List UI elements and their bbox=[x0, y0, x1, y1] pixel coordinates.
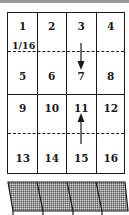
top-border bbox=[0, 0, 129, 3]
sixteen-cell-grid: 1 2 3 4 1/16 5 6 7 8 9 10 11 12 13 14 15… bbox=[7, 12, 125, 174]
cell-3-label: 3 bbox=[67, 20, 97, 32]
cell-13-label: 13 bbox=[8, 152, 38, 164]
cell-4-label: 4 bbox=[96, 20, 126, 32]
cell-12-label: 12 bbox=[96, 102, 126, 114]
cell-9-label: 9 bbox=[8, 102, 38, 114]
row-divider-middle bbox=[8, 94, 124, 95]
cell-16-label: 16 bbox=[96, 152, 126, 164]
hatched-strip bbox=[7, 181, 129, 215]
arrow-up-icon bbox=[76, 113, 86, 145]
cell-7-label: 7 bbox=[67, 70, 97, 82]
cell-10-label: 10 bbox=[37, 102, 67, 114]
fraction-label: 1/16 bbox=[12, 40, 35, 51]
cell-5-label: 5 bbox=[8, 70, 38, 82]
cell-8-label: 8 bbox=[96, 70, 126, 82]
fold-line-upper bbox=[8, 51, 124, 52]
fold-line-lower bbox=[8, 133, 124, 134]
cell-1-label: 1 bbox=[8, 20, 38, 32]
cell-14-label: 14 bbox=[37, 152, 67, 164]
cell-2-label: 2 bbox=[37, 20, 67, 32]
cell-6-label: 6 bbox=[37, 70, 67, 82]
cell-15-label: 15 bbox=[67, 152, 97, 164]
arrow-down-icon bbox=[76, 43, 86, 71]
